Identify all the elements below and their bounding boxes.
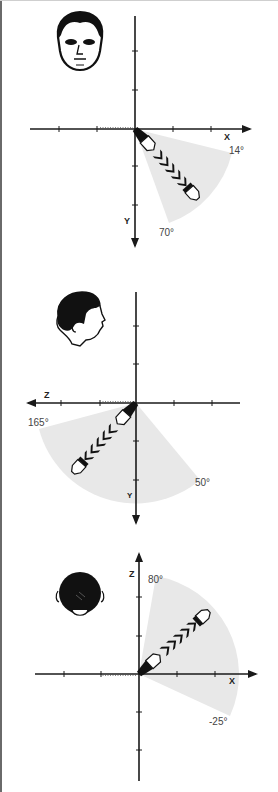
- angle-start-label: 14°: [229, 145, 244, 156]
- face-profile-icon: [57, 292, 105, 346]
- z-axis-label: Z: [129, 569, 135, 579]
- y-axis-label: Y: [127, 491, 133, 500]
- z-axis-label: Z: [44, 390, 50, 400]
- angle-start-label: 165°: [28, 417, 49, 428]
- x-axis-label: X: [224, 132, 230, 142]
- panel-front-view: X Y 14° 70°: [30, 12, 250, 246]
- panel-side-view: Z Y 165° 50°: [28, 292, 240, 523]
- diagram-frame: X Y 14° 70°: [0, 0, 278, 792]
- head-top-icon: [56, 572, 104, 615]
- angle-start-label: 80°: [148, 574, 163, 585]
- x-axis-label: X: [229, 676, 235, 686]
- panel-top-view: X Z 80° -25°: [35, 554, 256, 781]
- face-front-icon: [58, 12, 102, 70]
- angle-end-label: 50°: [195, 477, 210, 488]
- angle-end-label: 70°: [159, 227, 174, 238]
- diagram-canvas: X Y 14° 70°: [0, 0, 278, 792]
- y-axis-label: Y: [124, 216, 130, 226]
- angle-end-label: -25°: [209, 716, 227, 727]
- angle-range-wedge: [139, 576, 239, 716]
